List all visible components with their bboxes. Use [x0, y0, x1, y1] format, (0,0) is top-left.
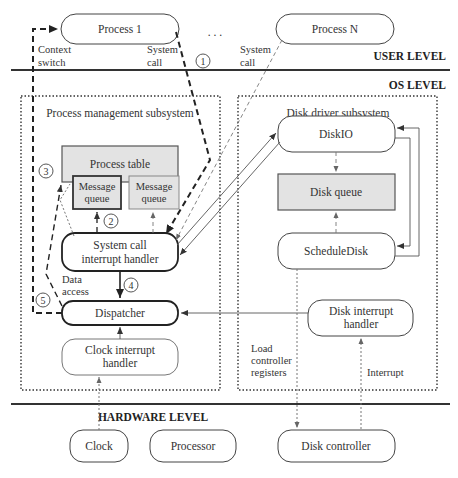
clock-interrupt-handler[interactable]: Clock interrupt handler — [62, 339, 178, 375]
svg-text:Dispatcher: Dispatcher — [95, 307, 145, 320]
context-switch-label-2: switch — [38, 57, 66, 68]
clock-hardware[interactable]: Clock — [70, 430, 128, 462]
diskio-node[interactable]: DiskIO — [278, 116, 395, 152]
svg-text:queue: queue — [141, 193, 166, 204]
svg-text:4: 4 — [129, 280, 134, 291]
svg-text:DiskIO: DiskIO — [319, 128, 353, 140]
svg-text:ScheduleDisk: ScheduleDisk — [304, 245, 368, 257]
diskio-to-handler-arrow — [180, 142, 280, 255]
process-n-label: Process N — [312, 23, 359, 35]
svg-text:queue: queue — [84, 193, 109, 204]
disk-queue[interactable]: Disk queue — [278, 174, 395, 210]
handler-process-table-link — [60, 184, 74, 236]
step-marker-5: 5 — [36, 293, 50, 307]
svg-text:1: 1 — [201, 56, 206, 67]
interrupt-label: Interrupt — [367, 367, 404, 378]
system-call-label-1b: call — [147, 57, 162, 68]
load-controller-label-3: registers — [251, 367, 287, 378]
disk-controller-hardware[interactable]: Disk controller — [278, 430, 395, 462]
ellipsis: . . . — [208, 26, 223, 38]
svg-text:Processor: Processor — [171, 440, 216, 452]
svg-text:2: 2 — [109, 216, 114, 227]
schedule-to-diskio-arrow — [395, 128, 419, 256]
process-table-label: Process table — [90, 158, 150, 170]
hardware-level-label: HARDWARE LEVEL — [98, 411, 209, 423]
diskio-to-schedule-arrow — [395, 138, 410, 246]
load-controller-label-2: controller — [251, 355, 292, 366]
message-queue-1-rect[interactable]: Message queue — [73, 176, 121, 209]
data-access-label-2: access — [62, 286, 89, 297]
system-call-label-na: System — [240, 44, 271, 55]
step-marker-2: 2 — [104, 214, 118, 228]
system-call-label-nb: call — [240, 57, 255, 68]
process-n-node[interactable]: Process N — [276, 14, 394, 44]
schedule-disk-node[interactable]: ScheduleDisk — [278, 233, 395, 269]
handler-to-diskio-arrow — [177, 133, 276, 245]
svg-text:Clock: Clock — [85, 440, 113, 452]
step-marker-4: 4 — [124, 278, 138, 292]
system-call-label-1a: System — [147, 44, 178, 55]
data-access-label-1: Data — [62, 274, 82, 285]
message-queue-2-rect[interactable]: Message queue — [129, 176, 179, 209]
svg-text:Message: Message — [136, 181, 173, 192]
os-architecture-diagram: USER LEVEL OS LEVEL HARDWARE LEVEL Proce… — [0, 0, 458, 478]
svg-text:System call: System call — [93, 239, 146, 252]
svg-text:interrupt handler: interrupt handler — [82, 253, 159, 266]
process-1-node[interactable]: Process 1 — [61, 14, 179, 44]
disk-interrupt-handler[interactable]: Disk interrupt handler — [308, 300, 413, 336]
processor-hardware[interactable]: Processor — [150, 430, 236, 462]
dispatcher[interactable]: Dispatcher — [62, 301, 178, 325]
user-level-label: USER LEVEL — [373, 50, 446, 62]
system-call-interrupt-handler[interactable]: System call interrupt handler — [62, 233, 178, 271]
process-1-label: Process 1 — [98, 23, 142, 35]
svg-text:handler: handler — [103, 357, 138, 369]
svg-text:3: 3 — [44, 166, 49, 177]
data-access-arrow — [46, 185, 62, 306]
load-controller-label-1: Load — [251, 343, 273, 354]
svg-text:Clock interrupt: Clock interrupt — [85, 344, 156, 357]
step-marker-1: 1 — [196, 54, 210, 68]
step-marker-3: 3 — [39, 164, 53, 178]
os-level-label: OS LEVEL — [389, 79, 447, 91]
process-management-title: Process management subsystem — [46, 107, 194, 120]
svg-text:handler: handler — [344, 318, 379, 330]
svg-text:5: 5 — [41, 295, 46, 306]
svg-text:Disk queue: Disk queue — [310, 186, 362, 199]
context-switch-label-1: Context — [38, 44, 71, 55]
svg-text:Disk interrupt: Disk interrupt — [329, 305, 394, 318]
svg-text:Disk controller: Disk controller — [301, 440, 370, 452]
svg-text:Message: Message — [79, 181, 116, 192]
